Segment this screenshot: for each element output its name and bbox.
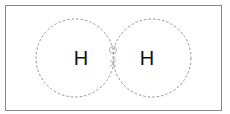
atom-label-right: H xyxy=(140,47,154,69)
hydrogen-molecule-diagram: H H xyxy=(0,0,230,114)
diagram-border xyxy=(6,6,222,111)
atom-label-left: H xyxy=(74,47,88,69)
